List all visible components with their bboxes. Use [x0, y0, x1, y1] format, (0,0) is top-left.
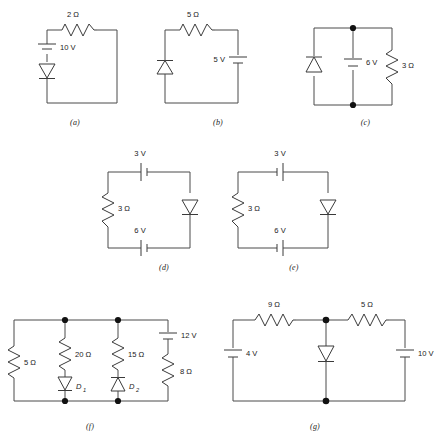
diode-d1-sublabel: 1 [83, 387, 86, 393]
figure-c: 6 V 3 Ω (c) [288, 0, 443, 132]
caption-b: (b) [143, 118, 293, 127]
resistor-3-ohm-label: 3 Ω [402, 61, 414, 70]
resistor-3-ohm [386, 50, 398, 84]
resistor-9-ohm-label: 9 Ω [268, 300, 280, 309]
battery-4-v [224, 350, 242, 364]
battery-12-v [159, 333, 177, 354]
battery-12-v-label: 12 V [181, 331, 198, 340]
battery-6-v-label: 6 V [134, 226, 146, 235]
battery-3-v-label: 3 V [134, 149, 146, 158]
resistor-3-ohm-label: 3 Ω [118, 204, 130, 213]
junction-bottom-c [350, 102, 356, 108]
battery-3-v [277, 163, 289, 181]
wire-g-top-right [389, 320, 405, 348]
caption-g: (g) [215, 422, 415, 431]
wire-e-left-lower [238, 227, 277, 248]
wire-e-bottom-right [289, 221, 328, 248]
resistor-5-ohm-label: 5 Ω [187, 10, 199, 19]
diode-e [320, 200, 336, 221]
battery-4-v-label: 4 V [246, 349, 258, 358]
junction-top-g [323, 317, 330, 324]
junction-top-c [350, 25, 356, 31]
junction-top-3-f [115, 317, 121, 323]
battery-5-v-label: 5 V [214, 55, 226, 64]
resistor-9-ohm [255, 314, 296, 326]
junction-bottom-2-f [62, 398, 68, 404]
diode-c [306, 57, 322, 72]
junction-bottom-g [323, 398, 330, 405]
diode-b [157, 61, 173, 79]
resistor-3-ohm-label: 3 Ω [248, 204, 260, 213]
figure-sheet: 2 Ω 10 V (a) [0, 0, 443, 438]
battery-10-v-label: 10 V [60, 43, 77, 52]
figure-f: 5 Ω 20 Ω D 1 15 Ω [0, 296, 212, 438]
resistor-3-ohm [232, 193, 244, 227]
caption-f: (f) [0, 422, 180, 431]
diode-d2-sublabel: 2 [135, 387, 140, 393]
diode-d2 [111, 378, 125, 402]
diode-d1 [58, 377, 72, 401]
caption-e: (e) [218, 263, 370, 272]
diode-g [318, 346, 334, 401]
wire-a-outer [47, 30, 117, 103]
wire-d-bottom-right [153, 221, 190, 248]
caption-c: (c) [288, 118, 443, 127]
junction-bottom-3-f [115, 398, 121, 404]
resistor-5-ohm-label: 5 Ω [361, 300, 373, 309]
battery-3-v [141, 163, 153, 181]
wire-b-top-right [215, 30, 238, 55]
resistor-2-ohm [62, 24, 97, 36]
wire-b-bottom [165, 70, 238, 103]
caption-a: (a) [0, 118, 150, 127]
battery-6-v [141, 240, 153, 256]
battery-6-v [277, 240, 289, 256]
resistor-5-ohm [180, 24, 215, 36]
resistor-15-ohm [112, 338, 124, 370]
resistor-20-ohm [59, 338, 71, 370]
wire-d-top-right [153, 172, 190, 193]
diode-d2-label: D [129, 382, 135, 391]
diode-d [182, 200, 198, 221]
resistor-5-ohm [348, 314, 389, 326]
battery-6-v-label: 6 V [366, 58, 378, 67]
diode-a [39, 64, 55, 85]
resistor-2-ohm-label: 2 Ω [67, 10, 79, 19]
resistor-8-ohm [162, 354, 174, 386]
resistor-15-ohm-label: 15 Ω [128, 350, 145, 359]
wire-e-top-right [289, 172, 328, 193]
battery-10-v [38, 44, 56, 49]
battery-10-v-label: 10 V [418, 349, 435, 358]
battery-6-v [344, 59, 362, 66]
figure-g: 9 Ω 5 Ω 4 V [215, 296, 443, 438]
resistor-8-ohm-label: 8 Ω [180, 367, 192, 376]
battery-3-v-label: 3 V [274, 149, 286, 158]
battery-5-v [229, 57, 247, 70]
junction-top-2-f [62, 317, 68, 323]
figure-e: 3 V 3 Ω 6 V (e) [218, 145, 370, 277]
resistor-5-ohm [8, 346, 20, 378]
figure-a: 2 Ω 10 V (a) [0, 0, 150, 132]
resistor-20-ohm-label: 20 Ω [75, 350, 92, 359]
resistor-5-ohm-label: 5 Ω [24, 358, 36, 367]
battery-10-v [396, 350, 414, 364]
battery-6-v-label: 6 V [274, 226, 286, 235]
diode-d1-label: D [76, 382, 82, 391]
figure-b: 5 Ω 5 V (b) [143, 0, 293, 132]
resistor-3-ohm [102, 193, 114, 227]
